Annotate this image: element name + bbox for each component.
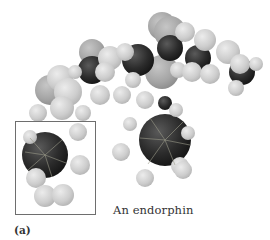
figure-caption: An endorphin [113,203,193,217]
hydrogen-atom [75,105,91,121]
hydrogen-atom [123,117,137,131]
hydrogen-atom [228,80,244,96]
hydrogen-atom [174,161,192,179]
highlight-box [15,121,96,215]
hydrogen-atom [230,54,250,74]
panel-label: (a) [14,224,31,236]
hydrogen-atom [90,85,110,105]
hydrogen-atom [136,91,154,109]
hydrogen-atom [112,143,130,161]
hydrogen-atom [200,64,220,84]
endorphin-figure: An endorphin (a) [0,0,270,240]
hydrogen-atom [116,43,134,61]
hydrogen-atom [249,57,263,71]
hydrogen-atom [68,65,82,79]
hydrogen-atom [29,104,47,122]
hydrogen-atom [181,126,195,140]
hydrogen-atom [113,86,131,104]
hydrogen-atom [50,96,74,120]
hydrogen-atom [169,103,183,117]
hydrogen-atom [194,29,216,51]
hydrogen-atom [95,62,115,82]
hydrogen-atom [175,22,195,42]
hydrogen-atom [182,62,202,82]
hydrogen-atom [125,72,141,88]
hydrogen-atom [136,169,154,187]
